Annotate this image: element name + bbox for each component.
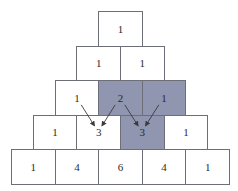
arrow-2 <box>125 105 138 126</box>
arrow-1 <box>102 105 115 126</box>
arrow-3 <box>146 105 159 126</box>
arrow-layer <box>0 0 238 191</box>
arrow-0 <box>81 105 94 126</box>
